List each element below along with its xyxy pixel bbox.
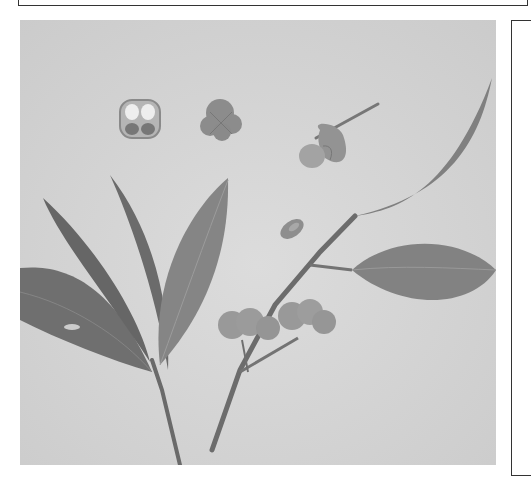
- fruit-cross-section: [120, 100, 160, 138]
- top-frame-border: [18, 0, 528, 6]
- botanical-photograph: [20, 20, 496, 465]
- right-frame-border: [511, 20, 531, 476]
